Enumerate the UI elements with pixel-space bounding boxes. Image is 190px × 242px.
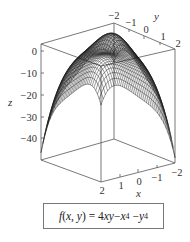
formula-f: f [59, 210, 62, 222]
x-tick-minus1: −1 [151, 172, 162, 183]
mesh-line [112, 45, 173, 149]
z-tick-minus30: −30 [21, 112, 37, 123]
formula-exp-1: 4 [126, 212, 130, 221]
z-axis-label: z [7, 96, 13, 108]
y-tick-0: 0 [143, 24, 148, 35]
z-tick-minus40: −40 [21, 133, 37, 144]
z-tick-0: 0 [32, 46, 37, 57]
mesh-line [93, 35, 154, 108]
mesh-line [48, 35, 121, 124]
y-tick-minus2: −2 [108, 10, 119, 21]
z-axis [41, 51, 44, 138]
surface-plot: 0 −10 −20 −30 −40 z −2 −1 0 1 2 y 2 1 0 … [0, 0, 190, 200]
formula-caption: f(x, y) = 4xy − x4 − y4 [43, 203, 164, 229]
x-axis-label: x [135, 187, 141, 199]
mesh-line [97, 73, 171, 139]
y-tick-1: 1 [160, 31, 165, 42]
y-tick-2: 2 [175, 38, 180, 49]
formula-x: x [66, 210, 71, 222]
z-tick-minus20: −20 [21, 90, 37, 101]
x-tick-0: 0 [136, 176, 141, 187]
z-tick-minus10: −10 [21, 68, 37, 79]
y-tick-labels: −2 −1 0 1 2 y [108, 10, 180, 49]
formula-xy: xy [104, 210, 114, 222]
x-tick-minus2: −2 [171, 167, 182, 178]
x-tick-2: 2 [99, 185, 104, 196]
z-tick-labels: 0 −10 −20 −30 −40 z [7, 46, 37, 144]
formula-y: y [77, 210, 82, 222]
formula-exp-2: 4 [144, 212, 148, 221]
x-tick-1: 1 [118, 180, 123, 191]
mesh-line [105, 35, 166, 129]
y-tick-minus1: −1 [125, 17, 136, 28]
mesh-line [50, 34, 123, 120]
y-axis-label: y [153, 10, 159, 22]
